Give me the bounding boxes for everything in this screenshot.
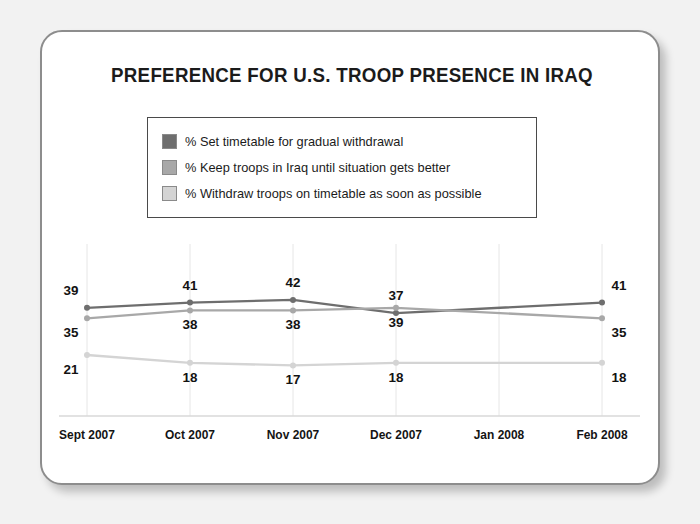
x-axis-tick-label: Dec 2007 bbox=[370, 428, 422, 442]
x-axis-tick-label: Nov 2007 bbox=[267, 428, 320, 442]
data-point-label: 39 bbox=[64, 283, 79, 298]
plot-area: Sept 2007Oct 2007Nov 2007Dec 2007Jan 200… bbox=[42, 32, 662, 487]
data-point-label: 37 bbox=[389, 288, 404, 303]
data-point-label: 21 bbox=[64, 362, 79, 377]
data-point-label: 39 bbox=[389, 315, 404, 330]
data-point-label: 17 bbox=[286, 372, 301, 387]
data-point-label: 42 bbox=[286, 275, 301, 290]
chart-card: PREFERENCE FOR U.S. TROOP PRESENCE IN IR… bbox=[40, 30, 660, 485]
chart-svg bbox=[42, 32, 662, 487]
data-point-label: 38 bbox=[286, 317, 301, 332]
data-point-label: 41 bbox=[183, 278, 198, 293]
data-point-label: 38 bbox=[183, 317, 198, 332]
x-axis-tick-label: Feb 2008 bbox=[576, 428, 627, 442]
x-axis-tick-label: Jan 2008 bbox=[474, 428, 525, 442]
x-axis-tick-label: Sept 2007 bbox=[59, 428, 115, 442]
data-point-label: 41 bbox=[612, 278, 627, 293]
data-point-label: 35 bbox=[612, 325, 627, 340]
data-point-label: 18 bbox=[389, 370, 404, 385]
data-point-label: 35 bbox=[64, 325, 79, 340]
data-point-label: 18 bbox=[183, 370, 198, 385]
x-axis-tick-label: Oct 2007 bbox=[165, 428, 215, 442]
data-point-label: 18 bbox=[612, 370, 627, 385]
